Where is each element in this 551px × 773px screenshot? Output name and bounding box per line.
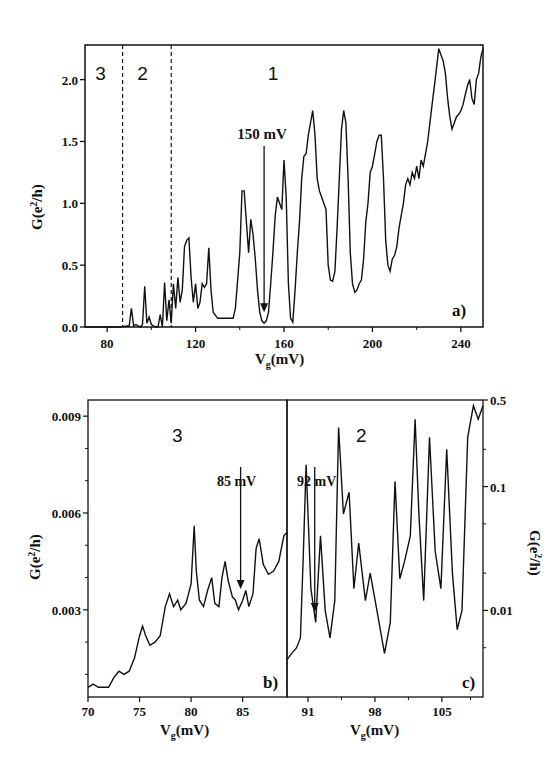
panel-a-xlabel: Vg(mV) xyxy=(255,351,304,370)
svg-text:98: 98 xyxy=(368,704,382,719)
svg-text:150 mV: 150 mV xyxy=(237,126,287,142)
panel-b-data-line xyxy=(88,526,287,687)
svg-text:0.003: 0.003 xyxy=(52,603,82,618)
annotation-92mv: 92 mV xyxy=(297,467,336,612)
annotation-150mv: 150 mV xyxy=(237,126,287,312)
svg-text:105: 105 xyxy=(432,704,452,719)
panel-a-label: a) xyxy=(452,301,466,320)
svg-text:75: 75 xyxy=(133,704,147,719)
panel-c-xlabel: Vg(mV) xyxy=(350,722,399,741)
panel-b-label: b) xyxy=(263,673,278,692)
svg-text:92 mV: 92 mV xyxy=(297,474,336,489)
panel-b-axes: 707580850.0030.0060.009 xyxy=(52,409,250,719)
svg-text:120: 120 xyxy=(186,336,206,351)
svg-text:0.1: 0.1 xyxy=(490,480,506,495)
panel-a-frame xyxy=(85,45,483,327)
panel-a-axes: 801201602002400.00.51.01.52.0 xyxy=(62,73,471,351)
figure: 801201602002400.00.51.01.52.0 321 150 mV… xyxy=(0,0,551,773)
svg-text:2.0: 2.0 xyxy=(62,73,78,88)
svg-text:80: 80 xyxy=(101,336,114,351)
svg-text:0.01: 0.01 xyxy=(490,603,513,618)
svg-text:0.009: 0.009 xyxy=(52,409,82,424)
svg-text:70: 70 xyxy=(82,704,95,719)
svg-text:1.0: 1.0 xyxy=(62,196,78,211)
svg-text:1: 1 xyxy=(268,63,279,84)
svg-text:0.5: 0.5 xyxy=(62,258,79,273)
panel-b-xlabel: Vg(mV) xyxy=(160,722,209,741)
svg-text:0.5: 0.5 xyxy=(490,393,507,408)
svg-text:0.006: 0.006 xyxy=(52,506,82,521)
panel-c-region-label: 2 xyxy=(356,425,367,446)
panel-c-data-line xyxy=(287,406,483,660)
panel-a-conductance-plot: 801201602002400.00.51.01.52.0 321 150 mV… xyxy=(28,45,483,370)
panel-a-ylabel: G(e2/h) xyxy=(28,184,46,230)
panel-c-ylabel: G(e2/h) xyxy=(526,530,544,576)
panel-c-axes: 91981050.010.10.5 xyxy=(302,393,513,719)
svg-text:85: 85 xyxy=(236,704,250,719)
panel-b-conductance-plot: 707580850.0030.0060.009 3 85 mV b) Vg(mV… xyxy=(26,400,287,741)
panel-c-conductance-plot: 91981050.010.10.5 2 92 mV c) Vg(mV) G(e2… xyxy=(287,393,544,741)
panel-c-label: c) xyxy=(462,673,475,692)
panel-b-region-label: 3 xyxy=(172,425,183,446)
svg-text:200: 200 xyxy=(363,336,383,351)
svg-text:91: 91 xyxy=(302,704,315,719)
panel-b-frame xyxy=(88,400,287,697)
svg-text:1.5: 1.5 xyxy=(62,134,79,149)
svg-text:2: 2 xyxy=(137,63,148,84)
panel-a-data-line xyxy=(85,49,483,327)
svg-text:85 mV: 85 mV xyxy=(217,474,256,489)
svg-text:0.0: 0.0 xyxy=(62,320,78,335)
svg-text:80: 80 xyxy=(185,704,198,719)
svg-text:160: 160 xyxy=(274,336,294,351)
panel-b-ylabel: G(e2/h) xyxy=(26,534,44,580)
svg-text:240: 240 xyxy=(451,336,471,351)
svg-text:3: 3 xyxy=(95,63,106,84)
